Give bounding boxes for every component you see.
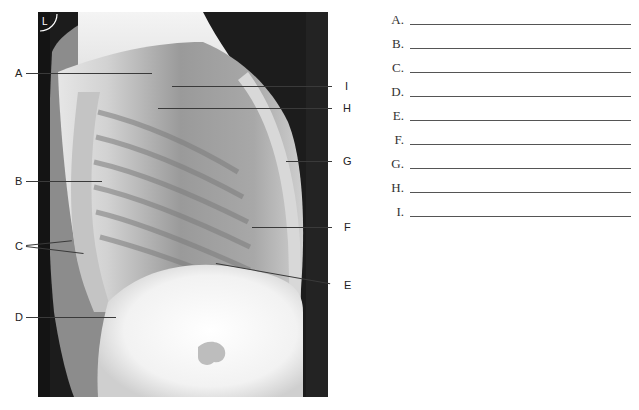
leader-line-h xyxy=(158,108,332,109)
answer-key-c: C. xyxy=(392,60,404,76)
answer-row-h: H. xyxy=(380,180,635,204)
answer-key-d: D. xyxy=(391,84,404,100)
orientation-marker-icon: L xyxy=(38,12,58,32)
answer-key-e: E. xyxy=(393,108,404,124)
leader-line-i xyxy=(172,86,332,87)
figure-label-h: H xyxy=(343,102,351,114)
answer-row-g: G. xyxy=(380,156,635,180)
answer-blank-g[interactable] xyxy=(410,168,631,169)
answer-row-c: C. xyxy=(380,60,635,84)
answer-row-f: F. xyxy=(380,132,635,156)
figure-label-i: I xyxy=(345,80,348,92)
xray-rendering xyxy=(38,12,328,397)
answer-row-i: I. xyxy=(380,204,635,228)
chest-xray-image xyxy=(38,12,328,397)
answer-blank-b[interactable] xyxy=(410,48,631,49)
leader-line-b xyxy=(26,181,102,182)
figure-label-f: F xyxy=(344,221,351,233)
figure-label-c: C xyxy=(15,240,23,252)
answer-key-b: B. xyxy=(392,36,404,52)
answer-row-a: A. xyxy=(380,12,635,36)
answer-blank-h[interactable] xyxy=(410,192,631,193)
answer-blank-a[interactable] xyxy=(410,24,631,25)
answer-key-a: A. xyxy=(391,12,404,28)
answer-blank-d[interactable] xyxy=(410,96,631,97)
figure-label-a: A xyxy=(15,67,22,79)
answer-blank-i[interactable] xyxy=(410,216,631,217)
leader-line-a xyxy=(26,73,152,74)
figure-label-b: B xyxy=(15,175,22,187)
answer-blank-e[interactable] xyxy=(410,120,631,121)
answer-blank-c[interactable] xyxy=(410,72,631,73)
svg-text:L: L xyxy=(42,16,48,27)
answer-key-g: G. xyxy=(391,156,404,172)
figure-label-d: D xyxy=(15,311,23,323)
answer-blank-f[interactable] xyxy=(410,144,631,145)
leader-line-g xyxy=(286,161,332,162)
leader-line-f xyxy=(252,227,332,228)
answer-row-b: B. xyxy=(380,36,635,60)
figure-label-g: G xyxy=(343,155,352,167)
answer-row-d: D. xyxy=(380,84,635,108)
answer-key-h: H. xyxy=(391,180,404,196)
answer-key-i: I. xyxy=(396,204,404,220)
figure-label-e: E xyxy=(344,279,351,291)
answer-key-f: F. xyxy=(395,132,404,148)
answer-row-e: E. xyxy=(380,108,635,132)
leader-line-d xyxy=(26,317,116,318)
